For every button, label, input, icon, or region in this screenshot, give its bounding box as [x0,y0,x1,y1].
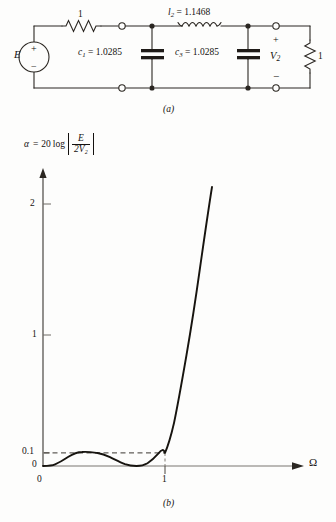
attenuation-plot [0,0,336,522]
y-tick-label-0: 0 [32,459,37,469]
equals-sign: = [33,139,38,149]
ratio-fraction: E 2V₂ [72,134,90,155]
x-tick-label-0: 0 [37,474,42,484]
abs-bar-left [68,133,69,155]
x-axis-label: Ω [309,457,317,468]
attenuation-curve [43,187,212,466]
figure-page: 1 1 E + − l2 = 1.1468 c1 = 1.0285 c3 = 1… [0,0,336,522]
alpha-symbol: α [24,139,29,149]
abs-bar-right [93,133,94,155]
x-tick-label-1: 1 [162,474,167,484]
caption-part-b: (b) [163,498,174,508]
coefficient-20: 20 [41,139,51,149]
y-tick-label-2: 2 [30,198,35,208]
fraction-denominator: 2V₂ [72,144,90,155]
log-function: log [53,139,65,149]
fraction-numerator: E [76,134,86,144]
y-tick-label-0p1: 0.1 [22,446,34,456]
y-tick-label-1: 1 [32,329,37,339]
y-axis-label: α = 20 log E 2V₂ [24,133,96,155]
y-axis-arrowhead [39,168,46,178]
x-axis-arrowhead [292,462,304,470]
